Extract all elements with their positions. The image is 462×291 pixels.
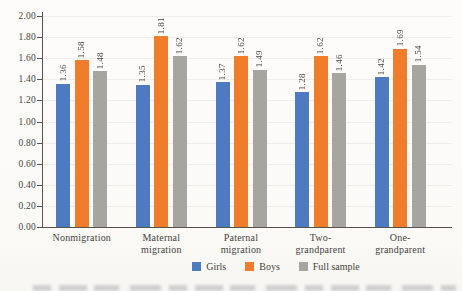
y-tick-mark: [37, 16, 42, 17]
legend-label: Full sample: [313, 261, 360, 272]
legend-item-full-sample: Full sample: [299, 261, 360, 272]
bar-boys: [154, 36, 168, 227]
bar-girls: [136, 85, 150, 227]
y-tick-label: 1.00: [0, 116, 36, 128]
y-tick-mark: [37, 79, 42, 80]
legend-swatch-full-sample: [299, 262, 308, 271]
bar-boys: [314, 56, 328, 227]
legend-swatch-girls: [192, 262, 201, 271]
bar-value-label: 1.46: [334, 54, 345, 71]
bar-value-label: 1.37: [217, 63, 228, 80]
y-tick-mark: [37, 100, 42, 101]
category-label: One-grandparent: [350, 232, 450, 255]
y-tick-label: 1.20: [0, 94, 36, 106]
y-tick-mark: [37, 37, 42, 38]
y-tick-label: 0.20: [0, 200, 36, 212]
y-tick-mark: [37, 58, 42, 59]
bar-full-sample: [332, 73, 346, 227]
bar-value-label: 1.49: [254, 50, 265, 67]
legend: GirlsBoysFull sample: [90, 261, 462, 272]
bar-full-sample: [412, 65, 426, 227]
x-axis-line: [42, 227, 452, 228]
bar-boys: [75, 60, 89, 227]
category-label-line: grandparent: [350, 244, 450, 256]
y-tick-mark: [37, 206, 42, 207]
bar-value-label: 1.28: [297, 73, 308, 90]
category-label-line: One-: [350, 232, 450, 244]
bar-full-sample: [253, 70, 267, 227]
bar-value-label: 1.62: [315, 37, 326, 54]
bar-value-label: 1.48: [95, 52, 106, 69]
y-tick-mark: [37, 122, 42, 123]
legend-item-boys: Boys: [245, 261, 280, 272]
bar-value-label: 1.69: [395, 29, 406, 46]
bar-value-label: 1.35: [137, 65, 148, 82]
y-tick-label: 1.60: [0, 52, 36, 64]
bar-girls: [375, 77, 389, 227]
bar-boys: [393, 49, 407, 227]
print-bleed-text: [33, 285, 456, 291]
bar-full-sample: [93, 71, 107, 227]
bar-value-label: 1.62: [236, 37, 247, 54]
gridline: [43, 16, 452, 17]
y-tick-label: 0.00: [0, 221, 36, 233]
y-tick-mark: [37, 185, 42, 186]
bar-girls: [56, 84, 70, 227]
legend-label: Boys: [259, 261, 280, 272]
y-tick-label: 2.00: [0, 10, 36, 22]
bar-value-label: 1.54: [413, 45, 424, 62]
y-tick-mark: [37, 164, 42, 165]
bar-value-label: 1.62: [174, 37, 185, 54]
bar-full-sample: [173, 56, 187, 227]
bar-value-label: 1.36: [58, 64, 69, 81]
legend-label: Girls: [206, 261, 226, 272]
y-tick-label: 0.40: [0, 179, 36, 191]
bar-boys: [234, 56, 248, 227]
gridline: [43, 37, 452, 38]
y-tick-label: 1.80: [0, 31, 36, 43]
legend-item-girls: Girls: [192, 261, 226, 272]
bar-value-label: 1.58: [76, 41, 87, 58]
bar-value-label: 1.81: [156, 17, 167, 34]
y-tick-label: 1.40: [0, 73, 36, 85]
y-tick-mark: [37, 143, 42, 144]
y-tick-label: 0.60: [0, 158, 36, 170]
y-tick-label: 0.80: [0, 137, 36, 149]
bar-chart-figure: 2.001.801.601.401.201.000.800.600.400.20…: [0, 0, 462, 291]
bar-girls: [295, 92, 309, 227]
bar-girls: [216, 82, 230, 227]
y-axis-line: [42, 12, 43, 227]
bar-value-label: 1.42: [376, 58, 387, 75]
legend-swatch-boys: [245, 262, 254, 271]
